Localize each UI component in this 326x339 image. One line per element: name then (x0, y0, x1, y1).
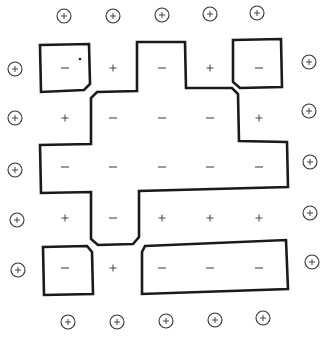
circled-plus-icon (302, 55, 316, 69)
circled-plus-icon (8, 163, 22, 177)
circled-plus-icon (302, 104, 316, 118)
plus-sign (62, 215, 69, 222)
circled-plus-icon (10, 213, 24, 227)
plus-sign (110, 65, 117, 72)
circled-plus-icon (305, 255, 319, 269)
circled-plus-icon (303, 155, 317, 169)
circled-plus-icon (61, 315, 75, 329)
circled-plus-icon (208, 313, 222, 327)
circled-plus-icon (159, 314, 173, 328)
plus-sign (207, 65, 214, 72)
circled-plus-icon (11, 263, 25, 277)
annotation-dot (79, 58, 82, 61)
circled-plus-icon (203, 7, 217, 21)
circled-plus-icon (106, 9, 120, 23)
circled-plus-icon (8, 111, 22, 125)
circled-plus-icon (250, 6, 264, 20)
plus-sign (256, 115, 263, 122)
circled-plus-icon (256, 311, 270, 325)
circled-plus-icon (110, 315, 124, 329)
plus-sign (159, 215, 166, 222)
contour-top-right-box (233, 39, 282, 88)
circled-plus-icon (303, 206, 317, 220)
circled-plus-icon (57, 9, 71, 23)
contour-central-cross (40, 42, 288, 245)
circled-plus-icon (155, 8, 169, 22)
plus-sign (110, 265, 117, 272)
plus-sign (256, 215, 263, 222)
contour-bottom-right-box (142, 240, 288, 294)
lattice-diagram (0, 0, 326, 339)
plus-sign (207, 215, 214, 222)
circled-plus-icon (8, 62, 22, 76)
contour-bottom-left-box (43, 246, 93, 295)
plus-sign (62, 115, 69, 122)
